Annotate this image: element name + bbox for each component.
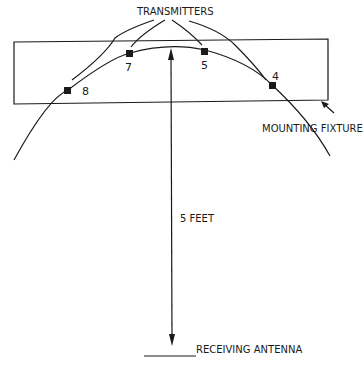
transmitter-4-label: 4 [272,70,279,83]
transmitter-5-icon [201,48,208,55]
distance-line [171,55,172,340]
receiving-antenna-label: RECEIVING ANTENNA [196,344,302,355]
arrow-down-icon [169,334,175,346]
transmitter-7-label: 7 [125,61,132,74]
leader-line-7 [131,20,165,47]
transmitter-8-icon [64,87,71,94]
transmitter-8-label: 8 [82,85,89,98]
arrow-up-icon [168,48,174,60]
mounting-fixture-label: MOUNTING FIXTURE [262,123,363,134]
distance-label: 5 FEET [180,213,215,224]
transmitters-label: TRANSMITTERS [136,6,214,17]
transmitter-4-icon [269,82,276,89]
transmitter-5-label: 5 [201,59,208,72]
transmitter-array-diagram: 8 7 5 4 TRANSMITTERS MOUNTING FIXTURE 5 … [0,0,363,369]
transmitter-7-icon [126,50,133,57]
